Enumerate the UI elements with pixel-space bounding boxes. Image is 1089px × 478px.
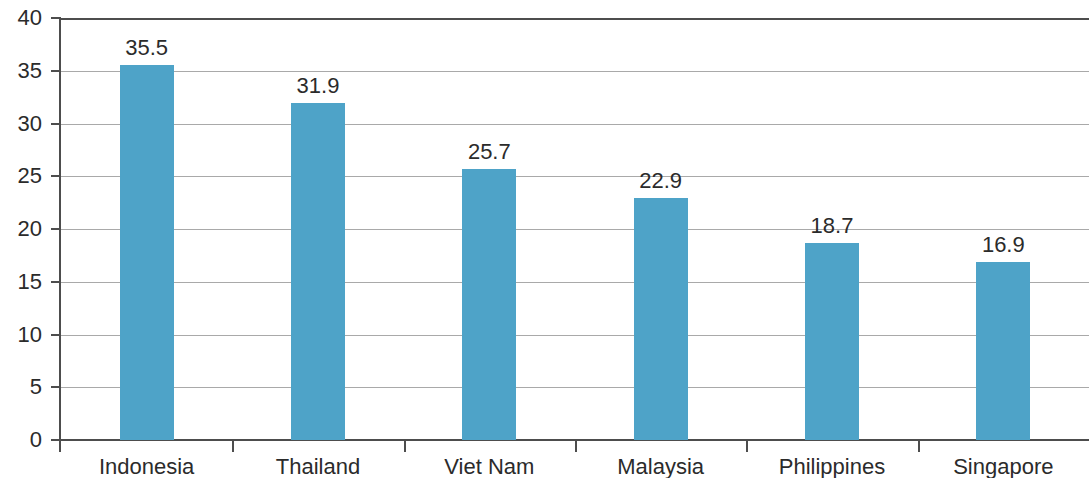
y-axis-tick-label: 30	[0, 113, 42, 135]
x-axis-category-label: Malaysia	[617, 455, 704, 478]
bar-group: 22.9	[575, 18, 746, 440]
plot-area: 35.531.925.722.918.716.9	[61, 18, 1089, 440]
bar-value-label: 18.7	[811, 215, 854, 237]
y-axis-tick-label: 10	[0, 324, 42, 346]
y-axis-tick-label: 40	[0, 7, 42, 29]
y-axis-tick-label: 20	[0, 218, 42, 240]
bar-value-label: 31.9	[297, 75, 340, 97]
bar-group: 16.9	[918, 18, 1089, 440]
bar-value-label: 25.7	[468, 141, 511, 163]
x-axis-tick-mark-origin	[59, 441, 61, 452]
bar[interactable]	[462, 169, 516, 440]
bar-group: 25.7	[404, 18, 575, 440]
y-axis-tick-label: 15	[0, 271, 42, 293]
x-axis-tick-mark	[918, 441, 920, 452]
x-axis-category-label: Philippines	[779, 455, 885, 478]
x-axis-tick-mark	[575, 441, 577, 452]
y-axis-tick-label: 35	[0, 60, 42, 82]
x-axis-category-label: Singapore	[953, 455, 1053, 478]
bar[interactable]	[120, 65, 174, 440]
bar-value-label: 22.9	[639, 170, 682, 192]
y-axis-tick-label: 25	[0, 165, 42, 187]
y-axis-tick-label: 5	[0, 376, 42, 398]
bar-group: 31.9	[232, 18, 403, 440]
y-axis-tick-label: 0	[0, 429, 42, 451]
bar[interactable]	[634, 198, 688, 440]
bar-chart: 0510152025303540 35.531.925.722.918.716.…	[0, 0, 1089, 478]
bar[interactable]	[976, 262, 1030, 440]
x-axis-category-label: Indonesia	[99, 455, 194, 478]
bar[interactable]	[291, 103, 345, 440]
x-axis-tick-mark	[746, 441, 748, 452]
x-axis-tick-mark	[232, 441, 234, 452]
x-axis-tick-mark	[404, 441, 406, 452]
bar-group: 18.7	[746, 18, 917, 440]
bar-value-label: 35.5	[125, 37, 168, 59]
bar-group: 35.5	[61, 18, 232, 440]
bar-value-label: 16.9	[982, 234, 1025, 256]
x-axis-category-label: Viet Nam	[444, 455, 534, 478]
x-axis-category-label: Thailand	[276, 455, 360, 478]
bar[interactable]	[805, 243, 859, 440]
